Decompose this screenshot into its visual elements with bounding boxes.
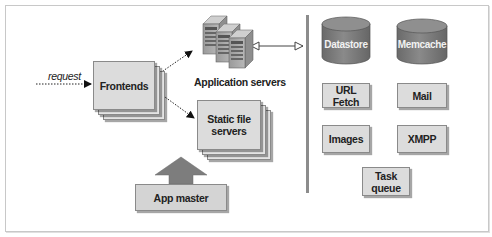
frontends-box[interactable]: Frontends: [93, 61, 155, 110]
app-servers-label: Application servers: [194, 76, 286, 88]
server-icon: [203, 16, 253, 68]
url-fetch-label: URL Fetch: [323, 84, 369, 108]
xmpp-box[interactable]: XMPP: [397, 125, 447, 153]
app-master-box[interactable]: App master: [135, 184, 227, 211]
separator-bar: [306, 15, 309, 193]
frontends-label: Frontends: [100, 80, 149, 92]
static-file-servers-box[interactable]: Static file servers: [197, 100, 261, 150]
task-queue-label-line2: queue: [371, 182, 400, 194]
static-servers-label-line2: servers: [211, 125, 246, 137]
app-master-up-arrow: [155, 157, 207, 184]
task-queue-label-line1: Task: [375, 170, 397, 182]
request-label: request: [48, 70, 81, 82]
frontends-to-appservers-arrow: [160, 51, 192, 73]
datastore-label: Datastore: [322, 39, 370, 50]
url-fetch-box[interactable]: URL Fetch: [322, 83, 370, 108]
static-servers-label-line1: Static file: [207, 113, 250, 125]
mail-label: Mail: [412, 90, 431, 102]
task-queue-box[interactable]: Task queue: [362, 167, 410, 196]
xmpp-label: XMPP: [408, 133, 437, 145]
memcache-label: Memcache: [397, 39, 447, 50]
app-master-label: App master: [154, 192, 209, 204]
images-box[interactable]: Images: [322, 125, 370, 153]
images-label: Images: [329, 133, 363, 145]
mail-box[interactable]: Mail: [397, 83, 447, 108]
